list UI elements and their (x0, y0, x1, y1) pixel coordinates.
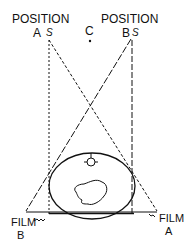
position-b-letter: B (122, 27, 130, 39)
source-a-symbol: S (46, 28, 53, 38)
film-b-letter: B (17, 230, 24, 241)
lesion-shape (75, 180, 107, 204)
center-label: C (85, 25, 94, 37)
source-b-symbol: S (132, 28, 139, 38)
center-point (89, 40, 91, 42)
radiography-geometry-diagram (0, 0, 191, 244)
film-b-title: FILM (11, 217, 36, 228)
film-a-title: FILM (159, 213, 184, 224)
film-a-hatch (149, 214, 155, 217)
beam-a-diagonal (49, 40, 157, 211)
position-a-letter: A (33, 27, 41, 39)
position-a-title: POSITION (12, 13, 69, 25)
film-a-letter: A (165, 226, 172, 237)
marker-circle (87, 158, 95, 166)
position-b-title: POSITION (101, 13, 158, 25)
body-cross-section (49, 153, 135, 219)
